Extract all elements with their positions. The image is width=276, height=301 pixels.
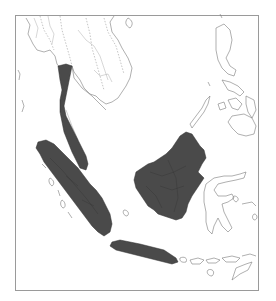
lesser-sunda-islands	[180, 254, 256, 280]
philippines	[216, 14, 256, 136]
java	[110, 240, 178, 264]
mainland-indochina	[18, 16, 132, 112]
palawan	[190, 82, 210, 128]
borneo	[134, 132, 206, 220]
map-canvas	[0, 0, 276, 301]
sulawesi	[204, 172, 257, 234]
